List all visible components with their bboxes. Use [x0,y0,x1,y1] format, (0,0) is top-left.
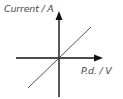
iv-graph-diagram: Current / A P.d. / V [0,0,123,99]
x-axis-arrow-icon [94,55,103,62]
y-axis-arrow-icon [56,11,63,20]
y-axis-label: Current / A [4,4,54,14]
x-axis-label: P.d. / V [81,66,112,76]
graph-axes-and-line [0,0,123,99]
